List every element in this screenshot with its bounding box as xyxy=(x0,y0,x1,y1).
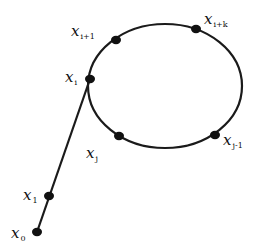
node-xj1 xyxy=(210,131,220,139)
label-base: x xyxy=(71,22,80,40)
label-subscript: i xyxy=(74,78,77,87)
label-base: x xyxy=(86,144,95,162)
label-x0: x0 xyxy=(11,224,26,243)
label-xj1: xj-1 xyxy=(223,131,243,150)
label-x1: x1 xyxy=(23,186,38,205)
label-base: x xyxy=(204,10,213,28)
cycle-ellipse xyxy=(88,24,242,148)
label-base: x xyxy=(65,68,74,86)
label-subscript: j xyxy=(94,154,97,163)
label-xi1: xi+1 xyxy=(71,22,95,41)
label-xj: xj xyxy=(86,144,98,163)
nodes-group xyxy=(32,25,220,236)
node-x0 xyxy=(32,228,42,236)
label-base: x xyxy=(11,224,20,242)
node-xi1 xyxy=(111,36,121,44)
tail-line xyxy=(37,79,90,232)
node-x1 xyxy=(44,192,54,200)
node-xik xyxy=(191,25,201,33)
label-xi: xi xyxy=(65,68,77,87)
label-xik: xi+k xyxy=(204,10,228,29)
label-subscript: 0 xyxy=(20,234,25,243)
node-xj xyxy=(114,132,124,140)
node-xi xyxy=(85,75,95,83)
rho-diagram: x0x1xixi+1xi+kxj-1xj xyxy=(0,0,259,252)
label-subscript: i+1 xyxy=(80,32,94,41)
label-base: x xyxy=(23,186,32,204)
label-subscript: j-1 xyxy=(231,141,242,150)
label-base: x xyxy=(223,131,232,149)
label-subscript: i+k xyxy=(213,20,227,29)
label-subscript: 1 xyxy=(32,196,37,205)
